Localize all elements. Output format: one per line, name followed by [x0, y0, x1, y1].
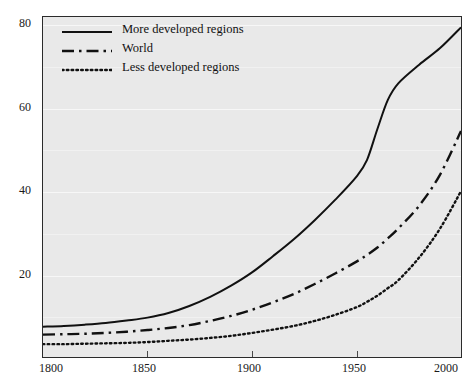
x-tick-label-1900: 1900 [237, 361, 261, 376]
x-tick-mark-1950 [357, 351, 358, 357]
y-tick-label-80: 80 [19, 16, 31, 31]
y-tick-label-60: 60 [19, 100, 31, 115]
series-line-dotted [43, 191, 461, 344]
x-tick-label-1950: 1950 [342, 361, 366, 376]
y-tick-label-20: 20 [19, 267, 31, 282]
legend-row-2[interactable]: World [62, 39, 244, 58]
clipped-title-text [0, 0, 471, 9]
solid-line-swatch [62, 24, 112, 36]
legend-label-3: Less developed regions [122, 60, 239, 75]
x-tick-mark-1850 [147, 351, 148, 357]
urbanization-line-chart: 20406080 18001850190019502000 More devel… [0, 0, 471, 382]
legend-row-3[interactable]: Less developed regions [62, 58, 244, 77]
x-tick-mark-1900 [252, 351, 253, 357]
legend-label-2: World [122, 41, 153, 56]
x-tick-label-1850: 1850 [132, 361, 156, 376]
x-tick-label-2000: 2000 [434, 361, 458, 376]
series-line-dash-dot [43, 131, 461, 335]
y-tick-label-40: 40 [19, 183, 31, 198]
x-tick-label-1800: 1800 [39, 361, 63, 376]
dash-dot-line-swatch [62, 43, 112, 55]
legend-label-1: More developed regions [122, 22, 244, 37]
chart-legend: More developed regionsWorldLess develope… [62, 20, 244, 77]
dotted-line-swatch [62, 62, 112, 74]
legend-row-1[interactable]: More developed regions [62, 20, 244, 39]
